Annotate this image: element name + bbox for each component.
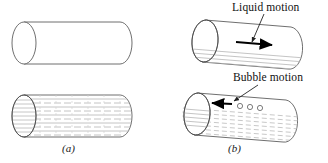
bubble-motion-label: Bubble motion (233, 71, 303, 83)
bubble-icon (257, 105, 262, 110)
bubble-icon (237, 103, 242, 108)
cylinder-a-top-end-cap (12, 22, 36, 64)
panel-a-caption: (a) (62, 142, 75, 154)
cylinder-a-bottom (10, 95, 134, 137)
panel-b-caption: (b) (228, 142, 241, 154)
cylinder-b-top (188, 14, 305, 74)
cylinder-a-top (12, 22, 132, 64)
bubble-icon (247, 104, 252, 109)
liquid-motion-label: Liquid motion (232, 1, 299, 13)
cylinder-b-bottom (180, 85, 300, 145)
bubble-motion-arrow (212, 103, 232, 104)
two-phase-flow-figure: Liquid motion Bubble motion (a) (b) (0, 0, 328, 163)
